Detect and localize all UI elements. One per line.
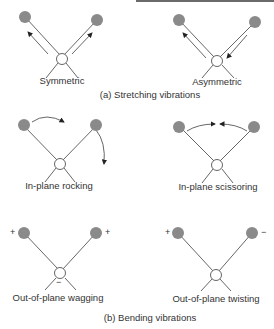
label-asymmetric: Asymmetric bbox=[192, 76, 242, 87]
label-scissoring: In-plane scissoring bbox=[178, 181, 257, 192]
label-wagging: Out-of-plane wagging bbox=[13, 292, 104, 303]
asymmetric-molecule bbox=[180, 21, 254, 78]
caption-stretching: (a) Stretching vibrations bbox=[100, 89, 200, 100]
sign-twisting-right: − bbox=[261, 227, 266, 237]
label-rocking: In-plane rocking bbox=[25, 180, 93, 191]
sign-twisting-left: + bbox=[165, 227, 170, 237]
symmetric-molecule bbox=[26, 18, 96, 78]
vibration-modes-diagram bbox=[0, 0, 274, 329]
sign-wagging-left: + bbox=[10, 227, 15, 237]
label-twisting: Out-of-plane twisting bbox=[172, 293, 259, 304]
sign-wagging-right: + bbox=[105, 227, 110, 237]
label-symmetric: Symmetric bbox=[40, 75, 85, 86]
caption-bending: (b) Bending vibrations bbox=[104, 312, 196, 323]
center-atoms bbox=[55, 54, 223, 281]
twisting-molecule bbox=[178, 233, 252, 291]
outer-atoms bbox=[18, 11, 261, 239]
sign-wagging-center: − bbox=[56, 277, 61, 287]
scissoring-molecule bbox=[180, 124, 254, 183]
